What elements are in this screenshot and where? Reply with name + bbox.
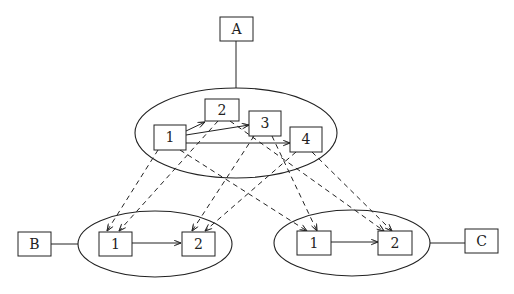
dashed-edge-top1-left1 [107, 150, 158, 231]
right-node-2[interactable]: 2 [378, 231, 412, 255]
node-b[interactable]: B [18, 232, 51, 256]
top-node-4-label: 4 [302, 131, 311, 147]
dashed-edge-top1-right1 [180, 150, 307, 231]
node-c-label: C [476, 233, 487, 249]
left-node-2[interactable]: 2 [182, 232, 215, 256]
dashed-edge-top4-left2 [205, 152, 296, 231]
node-b-label: B [29, 236, 39, 252]
node-a-label: A [230, 21, 242, 37]
node-c[interactable]: C [465, 229, 498, 253]
edge-top1-top2 [186, 122, 205, 131]
left-node-1[interactable]: 1 [99, 232, 132, 256]
dashed-edge-top4-right2 [312, 152, 392, 231]
right-node-2-label: 2 [391, 235, 400, 251]
diagram-canvas: A B C 1 2 3 4 1 2 1 2 [0, 0, 514, 294]
top-node-3[interactable]: 3 [249, 111, 281, 136]
dashed-edge-top3-left2 [192, 136, 254, 231]
top-node-3-label: 3 [261, 115, 270, 131]
top-node-1[interactable]: 1 [154, 125, 186, 150]
right-node-1[interactable]: 1 [297, 231, 331, 255]
node-a[interactable]: A [220, 17, 253, 41]
top-node-2-label: 2 [218, 102, 227, 118]
right-node-1-label: 1 [310, 235, 319, 251]
top-node-4[interactable]: 4 [290, 127, 322, 152]
top-node-2[interactable]: 2 [205, 99, 239, 121]
left-node-2-label: 2 [194, 236, 203, 252]
top-node-1-label: 1 [166, 129, 175, 145]
left-node-1-label: 1 [111, 236, 120, 252]
